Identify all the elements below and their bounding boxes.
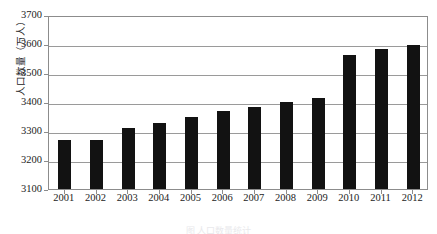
y-axis-tick-labels: 3100320033003400350036003700 [0, 0, 45, 234]
bar-2002 [90, 140, 103, 189]
y-axis-tick-label: 3300 [21, 125, 42, 136]
bar-2009 [312, 98, 325, 189]
bar-2011 [375, 49, 388, 189]
y-axis-tick-label: 3100 [21, 183, 42, 194]
bar-2001 [58, 140, 71, 189]
gridline [49, 133, 427, 134]
y-axis-tick-mark [44, 132, 48, 133]
y-axis-tick-label: 3700 [21, 9, 42, 20]
y-axis-tick-label: 3600 [21, 38, 42, 49]
gridline [49, 104, 427, 105]
bar-2005 [185, 117, 198, 190]
x-axis-tick-mark [412, 190, 413, 194]
bar-2006 [217, 111, 230, 189]
x-axis-tick-mark [159, 190, 160, 194]
figure-caption: 图 人口数量统计 [0, 224, 437, 234]
y-axis-tick-mark [44, 190, 48, 191]
x-axis-tick-mark [286, 190, 287, 194]
x-axis-tick-mark [349, 190, 350, 194]
bar-2008 [280, 102, 293, 189]
x-axis-tick-mark [191, 190, 192, 194]
x-axis-tick-mark [64, 190, 65, 194]
x-axis-tick-labels: 2001200220032004200520062007200820092010… [48, 192, 428, 208]
y-axis-tick-label: 3200 [21, 154, 42, 165]
bar-2003 [122, 128, 135, 189]
y-axis-tick-mark [44, 16, 48, 17]
bar-chart-figure: 人口数量（万人） 3100320033003400350036003700 20… [0, 0, 437, 234]
x-axis-tick-mark [317, 190, 318, 194]
bar-2004 [153, 123, 166, 189]
y-axis-tick-label: 3400 [21, 96, 42, 107]
gridline [49, 162, 427, 163]
y-axis-tick-label: 3500 [21, 67, 42, 78]
bar-2012 [407, 45, 420, 189]
y-axis-tick-mark [44, 74, 48, 75]
gridline [49, 75, 427, 76]
x-axis-tick-mark [381, 190, 382, 194]
gridline [49, 46, 427, 47]
y-axis-tick-mark [44, 45, 48, 46]
x-axis-tick-mark [96, 190, 97, 194]
x-axis-tick-mark [127, 190, 128, 194]
x-axis-tick-mark [254, 190, 255, 194]
y-axis-tick-mark [44, 161, 48, 162]
plot-area [48, 16, 428, 190]
bar-2007 [248, 107, 261, 189]
x-axis-tick-mark [222, 190, 223, 194]
y-axis-tick-mark [44, 103, 48, 104]
bar-2010 [343, 55, 356, 189]
